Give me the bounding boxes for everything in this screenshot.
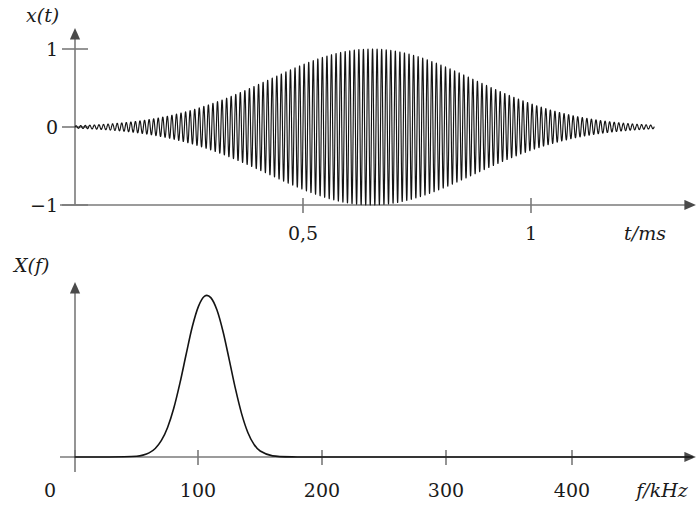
top-plot-ytick-label-0: 0 <box>46 116 58 138</box>
bottom-plot-spectrum: X(f) 0 100 200 300 400 f/kHz <box>12 254 692 501</box>
top-plot-time-domain: x(t) 1 0 −1 0,5 1 t/ms <box>26 4 686 244</box>
top-plot-x-axis-label: t/ms <box>624 222 666 244</box>
bottom-plot-xtick-label-0: 0 <box>44 479 56 501</box>
signal-and-spectrum-figure: x(t) 1 0 −1 0,5 1 t/ms X(f) 0 100 200 30… <box>0 0 698 519</box>
top-plot-xtick-label-0-5: 0,5 <box>288 222 318 244</box>
top-plot-xtick-label-1: 1 <box>525 222 537 244</box>
bottom-plot-xtick-label-100: 100 <box>180 479 216 501</box>
top-plot-ytick-label-1: 1 <box>46 38 58 60</box>
top-plot-y-axis-label: x(t) <box>26 4 59 26</box>
bottom-plot-xtick-label-400: 400 <box>554 479 590 501</box>
magnitude-spectrum-curve <box>75 295 692 457</box>
bottom-plot-xtick-label-300: 300 <box>428 479 464 501</box>
time-domain-waveform <box>75 49 654 205</box>
bottom-plot-xtick-label-200: 200 <box>304 479 340 501</box>
top-plot-ytick-label-minus-1: −1 <box>30 194 58 216</box>
bottom-plot-x-axis-label: f/kHz <box>634 479 689 501</box>
bottom-plot-y-axis-label: X(f) <box>12 254 49 276</box>
